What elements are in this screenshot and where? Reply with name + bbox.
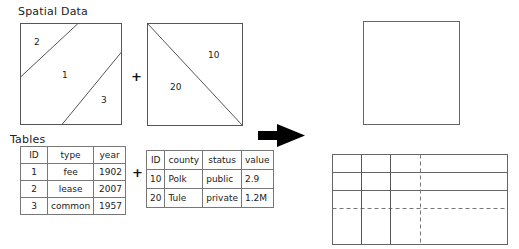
cell-id: 3	[21, 198, 48, 215]
column-header-county: county	[165, 151, 203, 170]
column-header-id: ID	[21, 147, 48, 164]
polygon-label-2: 2	[34, 37, 40, 47]
table-row: 20 Tule private 1.2M	[147, 189, 274, 208]
column-header-id: ID	[147, 151, 165, 170]
attribute-table-a: ID type year 1 fee 1902 2 lease 2007 3 c…	[20, 146, 126, 215]
table-row: 1 fee 1902	[21, 164, 126, 181]
column-header-year: year	[94, 147, 126, 164]
cell-id: 1	[21, 164, 48, 181]
table-header-row: ID type year	[21, 147, 126, 164]
column-header-type: type	[48, 147, 94, 164]
cell-year: 1957	[94, 198, 126, 215]
right-arrow-icon	[258, 124, 305, 147]
result-table-grid	[333, 155, 508, 245]
cell-value: 1.2M	[242, 189, 274, 208]
cell-type: common	[48, 198, 94, 215]
cell-id: 20	[147, 189, 165, 208]
table-row: 10 Polk public 2.9	[147, 170, 274, 189]
cell-county: Tule	[165, 189, 203, 208]
table-header-row: ID county status value	[147, 151, 274, 170]
table-row: 3 common 1957	[21, 198, 126, 215]
result-spatial-square	[364, 22, 460, 125]
polygon-label-10: 10	[208, 50, 219, 60]
polygon-label-20: 20	[170, 82, 181, 92]
column-header-value: value	[242, 151, 274, 170]
polygon-label-3: 3	[101, 95, 107, 105]
attribute-table-b: ID county status value 10 Polk public 2.…	[146, 150, 274, 208]
cell-year: 2007	[94, 181, 126, 198]
cell-status: private	[203, 189, 242, 208]
cell-county: Polk	[165, 170, 203, 189]
cell-type: lease	[48, 181, 94, 198]
cell-id: 10	[147, 170, 165, 189]
cell-type: fee	[48, 164, 94, 181]
spatial-plus-operator: +	[131, 69, 142, 84]
table-plus-operator: +	[132, 165, 143, 180]
column-header-status: status	[203, 151, 242, 170]
cell-value: 2.9	[242, 170, 274, 189]
cell-status: public	[203, 170, 242, 189]
cell-year: 1902	[94, 164, 126, 181]
spatial-layer-b	[148, 24, 243, 126]
cell-id: 2	[21, 181, 48, 198]
polygon-label-1: 1	[62, 70, 68, 80]
table-row: 2 lease 2007	[21, 181, 126, 198]
